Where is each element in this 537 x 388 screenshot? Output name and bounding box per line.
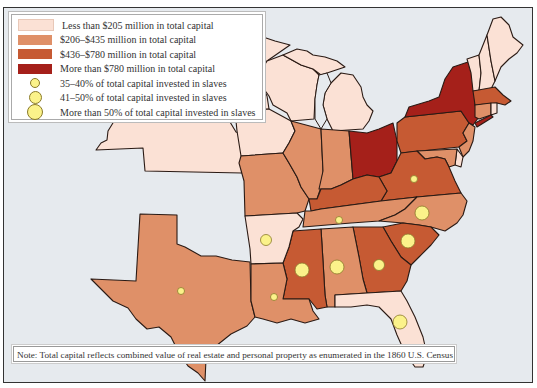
legend-label: $206–$435 million in total capital — [60, 34, 196, 45]
swatch-tier1 — [18, 19, 54, 31]
legend-label: 35–40% of total capital invested in slav… — [60, 78, 227, 89]
state-massachusetts — [473, 87, 511, 105]
legend-label: More than $780 million in total capital — [60, 63, 215, 74]
legend: Less than $205 million in total capital … — [11, 14, 263, 120]
legend-label: $436–$780 million in total capital — [60, 49, 196, 60]
legend-label: 41–50% of total capital invested in slav… — [60, 92, 227, 103]
legend-label: More than 50% of total capital invested … — [60, 107, 256, 118]
state-rhode-island — [491, 103, 497, 115]
circle-small-icon — [30, 78, 40, 88]
dot-virginia-small — [411, 176, 418, 183]
state-indiana — [319, 129, 353, 189]
swatch-tier4 — [18, 64, 52, 74]
legend-item-circle-small: 35–40% of total capital invested in slav… — [18, 76, 256, 91]
dot-alabama-large — [330, 260, 344, 274]
state-pennsylvania — [397, 111, 469, 153]
legend-item-circle-medium: 41–50% of total capital invested in slav… — [18, 91, 256, 106]
dot-florida-large — [393, 315, 407, 329]
legend-label: Less than $205 million in total capital — [62, 20, 214, 31]
dot-south-carolina-large — [401, 234, 415, 248]
swatch-tier3 — [18, 49, 52, 59]
legend-item-tier1: Less than $205 million in total capital — [18, 18, 256, 33]
dot-mississippi-large — [295, 263, 309, 277]
dot-tennessee-small — [336, 217, 343, 224]
swatch-tier2 — [18, 35, 52, 45]
dot-texas-small — [178, 288, 185, 295]
state-kansas — [96, 116, 242, 173]
state-ohio — [349, 123, 397, 179]
legend-item-tier4: More than $780 million in total capital — [18, 62, 256, 77]
dot-arkansas-medium — [261, 235, 272, 246]
legend-item-circle-large: More than 50% of total capital invested … — [18, 105, 256, 120]
census-note: Note: Total capital reflects combined va… — [13, 346, 455, 362]
circle-medium-icon — [29, 91, 42, 104]
dot-georgia-medium — [374, 260, 385, 271]
dot-louisiana-small — [271, 294, 278, 301]
legend-item-tier3: $436–$780 million in total capital — [18, 47, 256, 62]
map-frame: Less than $205 million in total capital … — [3, 7, 533, 383]
dot-north-carolina-medium — [415, 206, 429, 220]
legend-item-tier2: $206–$435 million in total capital — [18, 33, 256, 48]
circle-large-icon — [27, 104, 43, 120]
